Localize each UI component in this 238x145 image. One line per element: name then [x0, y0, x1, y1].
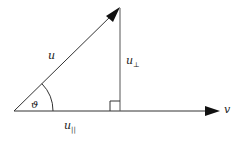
diagram-graphics [0, 0, 238, 145]
angle-arc-icon [42, 84, 53, 111]
u-perp-subscript: ⊥ [133, 61, 140, 69]
vector-v-label: v [224, 104, 230, 115]
projection-diagram: u v ϑ u⊥ u|| [0, 0, 238, 145]
vector-v-arrowhead-icon [205, 106, 220, 116]
angle-label: ϑ [31, 100, 38, 110]
vector-u-line [14, 13, 114, 111]
u-perp-label: u⊥ [126, 55, 140, 69]
u-parallel-label: u|| [64, 120, 76, 134]
right-angle-marker-icon [110, 101, 120, 111]
vector-u-label: u [48, 50, 55, 61]
vector-u-arrowhead-icon [106, 7, 120, 22]
u-parallel-subscript: || [71, 126, 76, 134]
